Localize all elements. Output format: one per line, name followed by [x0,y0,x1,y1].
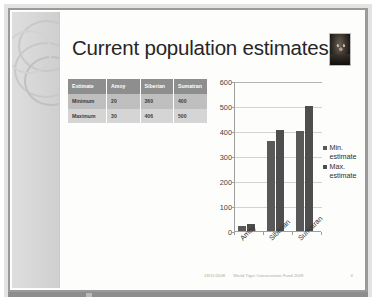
table-row: Minimum 20 360 400 [68,94,207,109]
cell-siberian: 360 [140,94,173,109]
table-header-sumatran: Sumatran [173,79,207,94]
footer-page-number: 4 [351,273,353,278]
legend-label-min-line2: estimate [329,152,356,161]
cell-amoy: 30 [107,109,140,124]
cell-sumatran: 500 [173,109,207,124]
y-axis-tick-300: 300 [210,153,232,162]
legend-label-max-line2: estimate [329,171,356,180]
footer-organisation: World Tiger Conservation Fund 2009 [233,273,303,278]
y-axis-tick-400: 400 [210,128,232,137]
bar-siberian-min [267,141,275,231]
footer-date: 18/11/2008 [204,273,225,278]
scan-bottom-notch [86,293,92,297]
bar-sumatran-min [296,131,304,231]
x-axis-category-labels: AmoySiberianSumatran [228,236,338,270]
sidebar-divider [59,12,60,288]
estimates-table: Estimate Amoy Siberian Sumatran Minimum … [68,79,207,123]
chart-legend: Min.estimate Max.estimate [323,144,361,182]
x-axis-tickmark [292,232,293,235]
table-header-row: Estimate Amoy Siberian Sumatran [68,79,207,94]
bar-sumatran-max [305,106,313,231]
slide-decorative-sidebar [12,12,59,288]
cell-row-label: Minimum [68,94,107,109]
table-header-siberian: Siberian [140,79,173,94]
legend-item-max: Max.estimate [323,163,361,180]
cell-amoy: 20 [107,94,140,109]
x-axis-tickmark [263,232,264,235]
presentation-slide: Current population estimates Estimate Am… [10,10,365,290]
table-row: Maximum 30 406 500 [68,109,207,124]
tiger-photo-thumbnail [329,33,351,66]
bar-group-sumatran [293,81,322,231]
y-axis-tick-100: 100 [210,203,232,212]
cell-siberian: 406 [140,109,173,124]
table-header-estimate: Estimate [68,79,107,94]
y-axis-tick-600: 600 [210,78,232,87]
y-axis-tick-labels: 6005004003002001000 [210,82,232,232]
population-bar-chart: 6005004003002001000 AmoySiberianSumatran… [210,78,360,268]
x-axis-tickmark [321,232,322,235]
slide-title: Current population estimates [72,36,342,60]
legend-swatch-icon [323,165,327,169]
legend-item-min: Min.estimate [323,144,361,161]
scan-bottom-band [8,292,368,297]
y-axis-tick-500: 500 [210,103,232,112]
bar-group-siberian [264,81,293,231]
cell-row-label: Maximum [68,109,107,124]
slide-footer: 18/11/2008 World Tiger Conservation Fund… [70,271,357,279]
scanned-slide-page: Current population estimates Estimate Am… [0,0,380,301]
legend-label-min: Min.estimate [329,144,356,161]
x-axis-tickmark [234,232,235,235]
y-axis-tick-200: 200 [210,178,232,187]
bar-group-amoy [235,81,264,231]
legend-label-max: Max.estimate [329,163,356,180]
legend-swatch-icon [323,146,327,150]
bar-siberian-max [276,130,284,232]
chart-plot-area [234,82,321,232]
table-header-amoy: Amoy [107,79,140,94]
cell-sumatran: 400 [173,94,207,109]
